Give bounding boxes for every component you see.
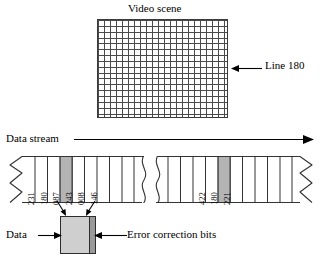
- line-180-arrow-icon: [231, 64, 263, 73]
- right-zigzag-break-icon: [300, 157, 312, 203]
- data-label: Data: [6, 227, 27, 241]
- stream-cell-value: 180: [40, 192, 49, 205]
- figure-canvas: Video scene Line 180 Data stream: [0, 0, 323, 263]
- video-scene-title: Video scene: [128, 1, 238, 15]
- converge-arrows-icon: [55, 201, 105, 217]
- data-block-detail: [60, 216, 96, 254]
- error-correction-label: Error correction bits: [127, 227, 216, 241]
- video-scene-grid: [97, 19, 228, 118]
- stream-cell-value: 422: [198, 192, 207, 205]
- stream-cell-value: 221: [223, 192, 232, 205]
- data-stream-label: Data stream: [6, 131, 59, 145]
- left-zigzag-break-icon: [10, 157, 22, 203]
- data-stream-direction-arrow-icon: [74, 134, 314, 145]
- line-180-label: Line 180: [265, 58, 304, 72]
- error-correction-arrow-icon: [94, 231, 127, 240]
- data-arrow-icon: [38, 231, 62, 240]
- middle-wavy-break-icon-b: [156, 156, 159, 203]
- middle-wavy-break-icon-a: [142, 156, 145, 203]
- stream-cell-value: 231: [27, 192, 36, 205]
- stream-cell-value: 180: [210, 192, 219, 205]
